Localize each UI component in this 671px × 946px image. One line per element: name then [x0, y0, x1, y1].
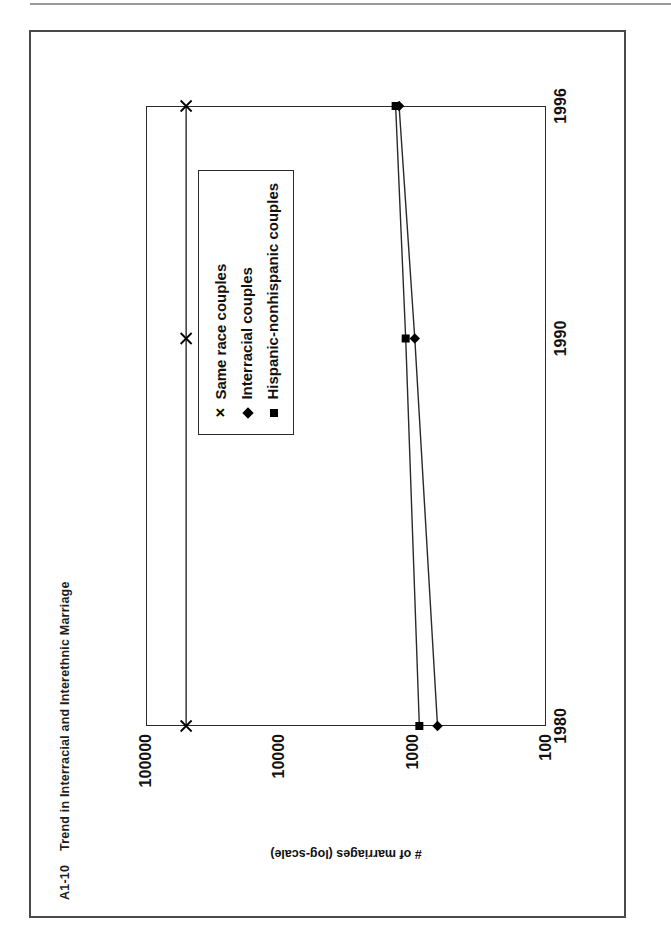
x-marker-icon: ✕: [213, 400, 226, 426]
figure-label: A1-10: [58, 865, 72, 900]
legend-item-label: Interracial couples: [237, 267, 254, 400]
figure-title-text: Trend in Interracial and Interethnic Mar…: [58, 581, 72, 851]
square-marker-icon: [264, 400, 279, 426]
chart-title: A1-10Trend in Interracial and Interethni…: [58, 581, 72, 900]
data-point-marker: [401, 335, 409, 343]
data-point-marker: [415, 722, 423, 730]
legend-item-label: Same race couples: [211, 264, 228, 400]
series-layer: [106, 58, 606, 848]
legend-item: Hispanic-nonhispanic couples: [259, 183, 285, 426]
legend: ✕Same race couplesInterracial couplesHis…: [198, 170, 294, 435]
plot-area: # of marriages (log-scale) 1000001000010…: [106, 58, 606, 848]
legend-item: ✕Same race couples: [207, 183, 233, 426]
rotated-chart-wrapper: A1-10Trend in Interracial and Interethni…: [0, 0, 671, 946]
data-point-marker: [432, 721, 442, 731]
legend-item-label: Hispanic-nonhispanic couples: [263, 183, 280, 400]
series-line: [395, 106, 419, 726]
data-point-marker: [409, 333, 419, 343]
legend-item: Interracial couples: [233, 183, 259, 426]
y-axis-title: # of marriages (log-scale): [270, 847, 421, 861]
data-point-marker: [391, 102, 399, 110]
series-line: [399, 106, 437, 726]
chart: A1-10Trend in Interracial and Interethni…: [46, 38, 626, 908]
scanned-page: A1-10Trend in Interracial and Interethni…: [0, 0, 671, 946]
diamond-marker-icon: [238, 400, 253, 426]
